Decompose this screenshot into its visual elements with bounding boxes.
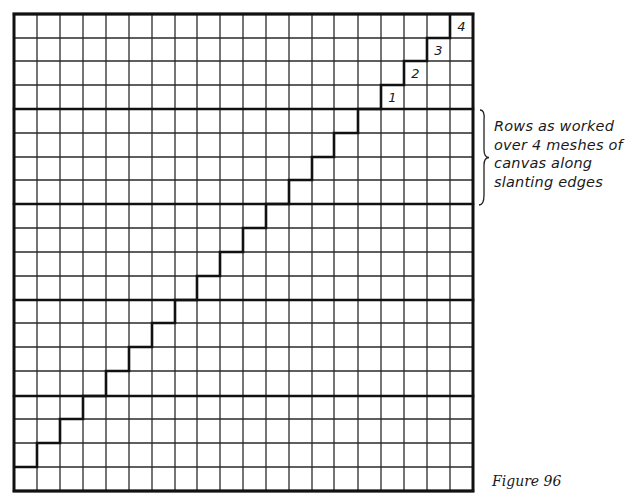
annotation-line: slanting edges [494,173,638,192]
annotation-line: Rows as worked [494,117,638,136]
annotation-line: canvas along [494,154,638,173]
stepped-edge-line [14,14,450,467]
brace-path [479,110,489,205]
figure-canvas: 1234 Rows as worked over 4 meshes of can… [0,0,638,499]
annotation-line: over 4 meshes of [494,136,638,155]
annotation-note: Rows as worked over 4 meshes of canvas a… [494,117,638,191]
step-number-label: 1 [388,90,396,105]
figure-caption: Figure 96 [492,473,561,489]
step-number-label: 4 [457,19,465,34]
step-number-label: 2 [411,66,419,81]
step-number-label: 3 [434,43,442,58]
canvas-mesh-grid: 1234 [0,0,638,499]
stepped-edge-path [14,14,450,467]
curly-bracket-icon [479,110,489,205]
